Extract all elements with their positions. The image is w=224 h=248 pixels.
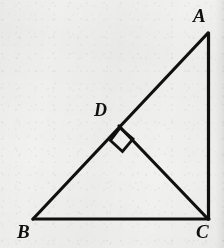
triangle-diagram-svg [0,0,224,248]
geometry-figure: A B C D [0,0,224,248]
vertex-label-a: A [193,6,206,25]
vertex-label-c: C [196,222,209,241]
vertex-label-d: D [94,101,107,119]
vertex-label-b: B [17,222,30,241]
